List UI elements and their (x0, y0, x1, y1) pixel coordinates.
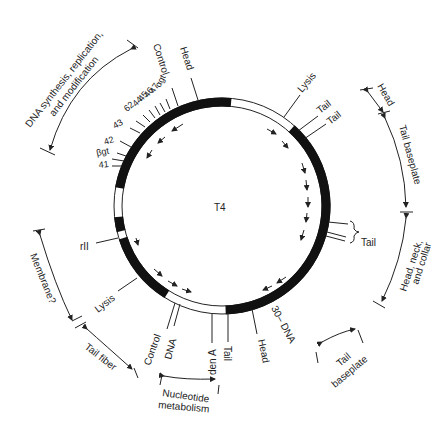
gene-label-42: 42 (103, 134, 116, 147)
gene-label-tail-2: Tail (324, 109, 343, 127)
region-label-tail-fiber: Tail fiber (83, 341, 120, 373)
gene-label-bgt: βgt (95, 145, 110, 158)
gene-label-tail-right: Tail (361, 237, 376, 248)
region-label-head: Head (375, 82, 396, 108)
gene-label-head: Head (178, 45, 196, 71)
gene-label-head-bottom: Head (256, 338, 272, 364)
gene-label-control-bottom: Control (142, 333, 163, 367)
tail-bracket (350, 221, 359, 243)
gene-label-tail-bottom: Tail (222, 346, 233, 361)
region-label-membrane: Membrane? (28, 252, 58, 306)
region-label-tail-baseplate-right: Tail baseplate (397, 124, 424, 186)
gene-label-rII: rII (80, 241, 89, 252)
gene-label-43: 43 (111, 117, 125, 131)
gene-label-41: 41 (98, 159, 109, 170)
gene-label-30-dna: 30– DNA (269, 304, 298, 345)
gene-label-dna-bottom: DNA (162, 337, 178, 361)
gene-label-lysis-bottom: Lysis (92, 292, 116, 314)
center-label: T4 (214, 202, 226, 213)
gene-label-lysis-top: Lysis (295, 70, 318, 94)
t4-genome-map: T4 Head Control αgt 47 46 45 44 62 (0, 0, 445, 431)
gene-label-control: Control (151, 42, 171, 76)
gene-label-denA: den A (207, 349, 218, 375)
